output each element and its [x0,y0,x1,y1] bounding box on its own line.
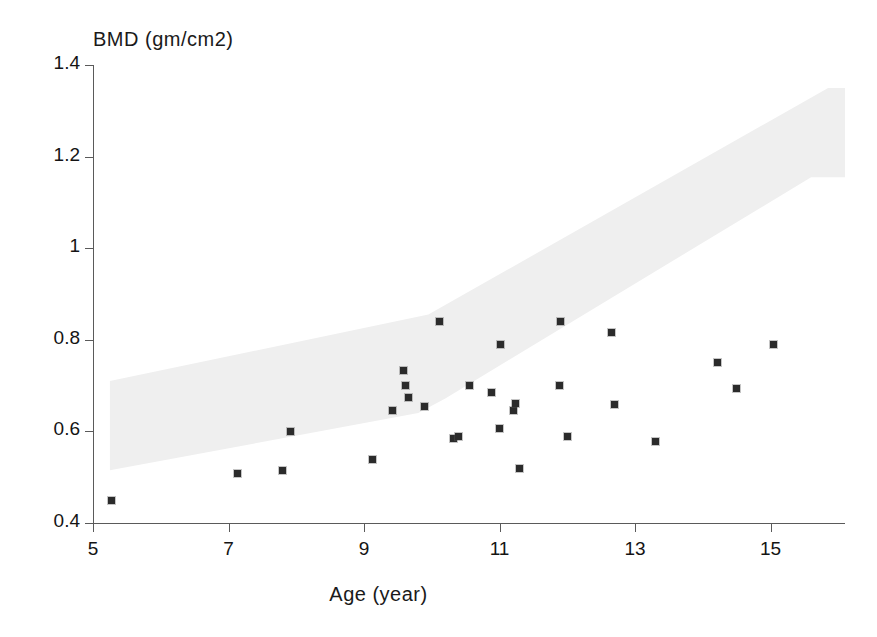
y-axis-tick-label-text: 0.4 [0,510,80,532]
x-axis-tick [635,523,636,532]
y-axis-tick-label: 0.8 [0,327,80,349]
data-point [279,467,286,474]
x-axis-line [93,523,845,524]
y-axis-tick-label: 0.6 [0,418,80,440]
data-point [488,389,495,396]
x-axis-title-text: Age (year) [329,583,427,605]
data-point [608,329,615,336]
data-point [733,385,740,392]
data-point [512,400,519,407]
data-point [466,382,473,389]
data-point [421,403,428,410]
data-point [287,428,294,435]
y-axis-tick-label: 1.2 [0,144,80,166]
data-point [770,341,777,348]
data-point [496,425,503,432]
data-point [652,438,659,445]
data-point [234,470,241,477]
x-axis-tick [364,523,365,532]
scatter-chart: BMD (gm/cm2) 0.40.60.811.21.4 579111315 … [0,0,877,637]
x-axis-tick-label: 7 [209,538,249,560]
data-points-layer [0,0,877,637]
data-point [564,433,571,440]
x-axis-tick-label: 13 [615,538,655,560]
data-point [389,407,396,414]
x-axis-tick [93,523,94,532]
x-axis-tick-label: 5 [73,538,113,560]
y-axis-line [93,65,94,524]
data-point [611,401,618,408]
x-axis-title: Age (year) [0,583,877,606]
y-axis-tick-label: 1 [0,235,80,257]
data-point [455,433,462,440]
y-axis-tick-label-text: 0.6 [0,418,80,440]
y-axis-tick-label-text: 1.2 [0,144,80,166]
x-axis-tick-label: 9 [344,538,384,560]
data-point [557,318,564,325]
y-axis-tick [85,157,94,158]
data-point [510,407,517,414]
data-point [405,394,412,401]
data-point [497,341,504,348]
data-point [369,456,376,463]
y-axis-tick [85,65,94,66]
data-point [516,465,523,472]
y-axis-tick-label-text: 1.4 [0,52,80,74]
x-axis-tick [500,523,501,532]
x-axis-tick [771,523,772,532]
y-axis-tick [85,431,94,432]
data-point [400,367,407,374]
y-axis-tick [85,340,94,341]
data-point [108,497,115,504]
y-axis-tick [85,248,94,249]
x-axis-tick-label: 15 [751,538,791,560]
y-axis-tick-label: 0.4 [0,510,80,532]
data-point [714,359,721,366]
x-axis-tick [229,523,230,532]
data-point [436,318,443,325]
y-axis-tick-label-text: 1 [0,235,80,257]
data-point [402,382,409,389]
y-axis-tick-label-text: 0.8 [0,327,80,349]
data-point [556,382,563,389]
y-axis-tick-label: 1.4 [0,52,80,74]
x-axis-tick-label: 11 [480,538,520,560]
